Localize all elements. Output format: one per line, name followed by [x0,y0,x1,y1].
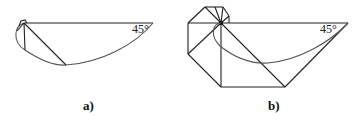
figure-b-lower-left-slant [188,54,221,87]
figure-b-spoke-1 [205,7,221,23]
figure-b-upper-left-slant [188,7,205,23]
figure-b-caption: b) [268,98,280,113]
figure-a-diagonal-segment [24,23,66,65]
figure-a-angle-label: 45° [132,22,149,36]
figure-b-spoke-3 [221,7,223,23]
figure-a: 45° a) [16,20,153,113]
figure-a-vertical-segment [24,23,25,50]
figure-a-caption: a) [83,98,94,113]
figure-b-angle-label: 45° [320,22,337,36]
diagram-canvas: 45° a) 45° b) [0,0,363,120]
figure-b-diagonal-line [221,23,285,87]
figure-b: 45° b) [188,7,348,113]
figure-b-inner-slant [188,23,221,54]
figure-b-octagon-right-slant [223,7,229,16]
